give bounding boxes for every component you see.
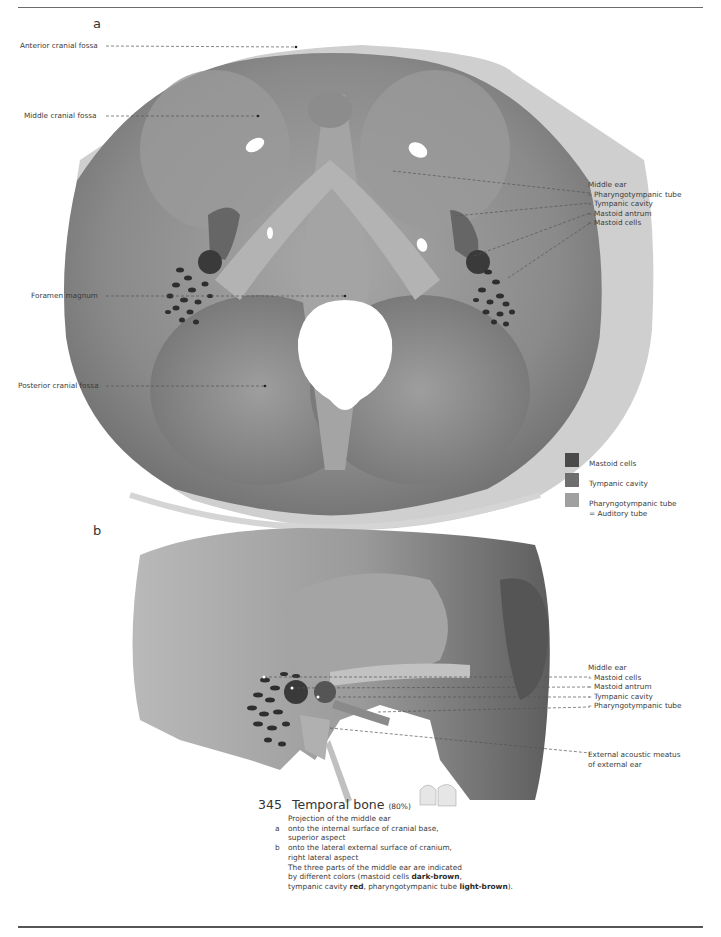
note-text: tympanic cavity xyxy=(288,882,349,891)
note-bold-dark-brown: dark-brown xyxy=(411,872,459,881)
panel-b-letter: b xyxy=(93,523,101,538)
label-pharyngotympanic-tube: – Pharyngotympanic tube xyxy=(588,190,681,200)
swatch-tympanic-cavity xyxy=(565,473,579,487)
label-external-acoustic-meatus: External acoustic meatus of external ear xyxy=(588,750,681,769)
note-text: ). xyxy=(508,882,513,891)
caption-note-line: The three parts of the middle ear are in… xyxy=(258,863,513,873)
bottom-rule xyxy=(18,926,703,928)
note-text: , xyxy=(459,872,461,881)
legend-label: Pharyngotympanic tube = Auditory tube xyxy=(589,499,677,518)
swatch-mastoid-cells xyxy=(565,453,579,467)
caption-line: onto the internal surface of cranial bas… xyxy=(288,824,439,833)
caption-item-b: b onto the lateral external surface of c… xyxy=(258,843,513,853)
note-text: , pharyngotympanic tube xyxy=(363,882,459,891)
caption-note-line: by different colors (mastoid cells dark-… xyxy=(258,872,513,882)
label-mastoid-cells: – Mastoid cells xyxy=(588,673,681,683)
caption-line: right lateral aspect xyxy=(258,853,513,863)
figure-title: Temporal bone xyxy=(292,797,384,812)
middle-ear-heading: Middle ear xyxy=(588,663,681,673)
label-mastoid-antrum: – Mastoid antrum xyxy=(588,682,681,692)
panel-a-letter: a xyxy=(93,16,101,31)
caption-line: superior aspect xyxy=(258,833,513,843)
figure-title-line: 345 Temporal bone (80%) xyxy=(258,797,513,812)
note-text: by different colors (mastoid cells xyxy=(288,872,411,881)
note-bold-red: red xyxy=(349,882,363,891)
label-mastoid-cells: – Mastoid cells xyxy=(588,218,681,228)
panel-b-illustration xyxy=(133,528,550,806)
figure-number: 345 xyxy=(258,797,288,812)
external-label-line1: External acoustic meatus xyxy=(588,750,681,760)
caption-note-line: tympanic cavity red, pharyngotympanic tu… xyxy=(258,882,513,892)
label-foramen-magnum: Foramen magnum xyxy=(31,291,98,301)
legend-label-line2: = Auditory tube xyxy=(589,509,677,519)
panel-b-middle-ear-labels: Middle ear – Mastoid cells – Mastoid ant… xyxy=(588,663,681,711)
legend-label: Mastoid cells xyxy=(589,459,636,469)
external-label-line2: of external ear xyxy=(588,760,681,770)
legend-label: Tympanic cavity xyxy=(589,479,648,489)
label-anterior-cranial-fossa: Anterior cranial fossa xyxy=(20,41,98,51)
figure-scale: (80%) xyxy=(388,802,411,811)
label-posterior-cranial-fossa: Posterior cranial fossa xyxy=(18,381,99,391)
label-middle-cranial-fossa: Middle cranial fossa xyxy=(24,111,96,121)
label-mastoid-antrum: – Mastoid antrum xyxy=(588,209,681,219)
middle-ear-heading: Middle ear xyxy=(588,180,681,190)
caption-item-a: a onto the internal surface of cranial b… xyxy=(258,824,513,834)
caption-intro: Projection of the middle ear xyxy=(258,814,513,824)
note-bold-light-brown: light-brown xyxy=(459,882,507,891)
panel-a-middle-ear-labels: Middle ear – Pharyngotympanic tube – Tym… xyxy=(588,180,681,228)
figure-caption: 345 Temporal bone (80%) Projection of th… xyxy=(258,797,513,892)
legend-label-line1: Pharyngotympanic tube xyxy=(589,499,677,509)
label-tympanic-cavity: – Tympanic cavity xyxy=(588,199,681,209)
label-tympanic-cavity: – Tympanic cavity xyxy=(588,692,681,702)
caption-line: onto the lateral external surface of cra… xyxy=(288,843,452,852)
caption-body: Projection of the middle ear a onto the … xyxy=(258,814,513,892)
label-pharyngotympanic-tube: – Pharyngotympanic tube xyxy=(588,701,681,711)
caption-key: b xyxy=(275,843,280,853)
caption-key: a xyxy=(275,824,280,834)
swatch-pharyngotympanic-tube xyxy=(565,493,579,507)
